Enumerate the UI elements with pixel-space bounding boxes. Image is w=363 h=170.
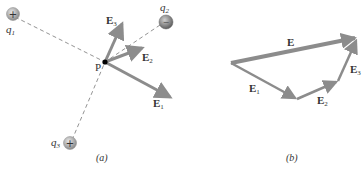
plus-sign-icon: + xyxy=(66,138,74,149)
charge-q1-label: q1 xyxy=(6,23,15,37)
caption-b: (b) xyxy=(286,152,298,164)
dashed-line-q1 xyxy=(15,17,105,62)
vector-e3-label: E3 xyxy=(106,14,117,28)
charge-q3-label: q3 xyxy=(51,136,61,150)
caption-a: (a) xyxy=(96,152,108,164)
panel-a: P + q1 − q2 + q3 E1 E2 E3 (a) xyxy=(6,1,173,164)
vector-e1-label: E1 xyxy=(249,82,260,96)
vector-e3-arrow xyxy=(338,41,356,81)
charge-q1: + q1 xyxy=(6,8,20,38)
charge-q3: + q3 xyxy=(51,136,77,150)
resultant-e-label: E xyxy=(287,36,294,48)
electric-field-diagram: P + q1 − q2 + q3 E1 E2 E3 (a) E E1 E2 xyxy=(0,0,363,170)
vector-e3-label: E3 xyxy=(350,63,361,77)
charge-q2: − q2 xyxy=(159,1,173,29)
plus-sign-icon: + xyxy=(9,9,17,20)
vector-e1-arrow xyxy=(105,62,170,97)
vector-e2-label: E2 xyxy=(317,94,328,108)
charge-q2-label: q2 xyxy=(160,1,170,15)
vector-e1-arrow xyxy=(231,63,295,98)
point-p xyxy=(102,59,107,64)
vector-e2-label: E2 xyxy=(142,51,153,65)
minus-sign-icon: − xyxy=(163,18,170,27)
panel-b: E E1 E2 E3 (b) xyxy=(231,36,361,164)
dashed-line-q3 xyxy=(72,62,105,140)
point-p-label: P xyxy=(95,61,101,73)
vector-e1-label: E1 xyxy=(153,97,164,111)
